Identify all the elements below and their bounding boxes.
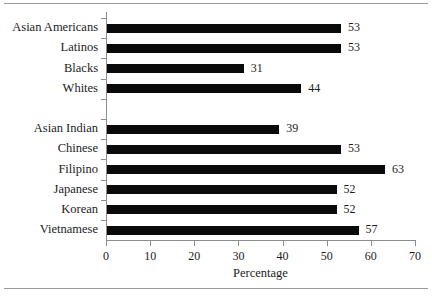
category-label: Whites: [0, 82, 98, 95]
bar-value-label: 53: [348, 21, 360, 33]
bar-value-label: 52: [344, 203, 356, 215]
x-axis-tick: [371, 241, 372, 246]
x-tick-label: 20: [174, 250, 214, 262]
x-axis-tick: [415, 241, 416, 246]
x-axis-line: [106, 240, 416, 241]
bar-value-label: 44: [308, 82, 320, 94]
x-axis-title: Percentage: [0, 266, 432, 281]
category-label: Korean: [0, 203, 98, 216]
x-axis-title-text: Percentage: [233, 266, 288, 281]
y-axis-tick: [101, 159, 106, 160]
bottom-divider-rule: [4, 288, 428, 289]
x-tick-label: 40: [263, 250, 303, 262]
y-axis-tick: [101, 139, 106, 140]
category-label: Blacks: [0, 62, 98, 75]
figure: Asian AmericansLatinosBlacksWhitesAsian …: [0, 0, 432, 297]
x-tick-label: 10: [130, 250, 170, 262]
category-label: Asian Indian: [0, 122, 98, 135]
bar: [107, 84, 301, 93]
bar: [107, 44, 341, 53]
y-axis-tick: [101, 58, 106, 59]
bar: [107, 185, 337, 194]
y-axis-tick: [101, 119, 106, 120]
bar: [107, 205, 337, 214]
x-axis-tick: [150, 241, 151, 246]
y-axis-tick: [101, 18, 106, 19]
y-axis-tick: [101, 220, 106, 221]
bar-value-label: 57: [366, 223, 378, 235]
bar: [107, 226, 359, 235]
x-tick-label: 60: [351, 250, 391, 262]
x-tick-label: 0: [86, 250, 126, 262]
bar-value-label: 53: [348, 142, 360, 154]
bar-chart-plot-area: Asian AmericansLatinosBlacksWhitesAsian …: [0, 10, 432, 260]
bar-value-label: 39: [286, 122, 298, 134]
x-tick-label: 50: [307, 250, 347, 262]
bar: [107, 145, 341, 154]
bar: [107, 125, 279, 134]
y-axis-tick: [101, 79, 106, 80]
category-label: Vietnamese: [0, 223, 98, 236]
x-axis-tick: [283, 241, 284, 246]
x-axis-tick: [194, 241, 195, 246]
bar: [107, 165, 385, 174]
x-tick-label: 30: [218, 250, 258, 262]
bar-value-label: 31: [251, 62, 263, 74]
top-divider-rule: [4, 3, 428, 4]
x-axis-tick: [327, 241, 328, 246]
y-axis-tick: [101, 200, 106, 201]
category-label: Latinos: [0, 41, 98, 54]
y-axis-tick: [101, 99, 106, 100]
bar-value-label: 63: [392, 163, 404, 175]
y-axis-tick: [101, 180, 106, 181]
bar: [107, 64, 244, 73]
x-axis-tick: [238, 241, 239, 246]
category-label: Japanese: [0, 183, 98, 196]
bar: [107, 24, 341, 33]
category-label: Filipino: [0, 163, 98, 176]
category-label: Chinese: [0, 142, 98, 155]
bar-value-label: 53: [348, 41, 360, 53]
bar-value-label: 52: [344, 183, 356, 195]
y-axis-tick: [101, 38, 106, 39]
category-label: Asian Americans: [0, 21, 98, 34]
x-tick-label: 70: [395, 250, 432, 262]
x-axis-tick: [106, 241, 107, 246]
